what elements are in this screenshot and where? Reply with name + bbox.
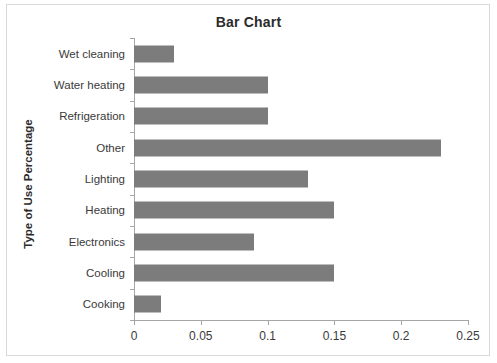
bar-cooling <box>134 264 334 281</box>
x-axis-tick-label: 0.2 <box>393 329 410 343</box>
y-axis-tick-label: Cooking <box>83 298 125 310</box>
y-axis-tick-label: Lighting <box>85 173 125 185</box>
x-axis-tick-label: 0 <box>131 329 138 343</box>
chart-category-row: Cooking <box>134 289 468 320</box>
y-axis-tick <box>130 163 134 164</box>
x-axis-tick <box>268 321 269 325</box>
y-axis-tick <box>130 38 134 39</box>
x-axis-tick-label: 0.05 <box>189 329 212 343</box>
bar-heating <box>134 202 334 219</box>
bar-water-heating <box>134 76 268 93</box>
bar-chart-figure: Bar Chart Type of Use Percentage Cooking… <box>0 0 497 363</box>
y-axis-tick-label: Refrigeration <box>59 110 125 122</box>
bar-electronics <box>134 233 254 250</box>
y-axis-tick-label: Water heating <box>54 79 125 91</box>
y-axis-tick <box>130 226 134 227</box>
y-axis-tick-label: Heating <box>85 204 125 216</box>
chart-category-row: Wet cleaning <box>134 38 468 69</box>
x-axis-tick <box>134 321 135 325</box>
bar-lighting <box>134 170 308 187</box>
y-axis-tick-label: Other <box>96 142 125 154</box>
chart-category-row: Water heating <box>134 69 468 100</box>
chart-category-row: Refrigeration <box>134 101 468 132</box>
y-axis-title: Type of Use Percentage <box>22 74 34 294</box>
x-axis-tick <box>201 321 202 325</box>
y-axis-tick-label: Electronics <box>69 236 125 248</box>
x-axis-tick <box>334 321 335 325</box>
chart-category-row: Lighting <box>134 163 468 194</box>
x-axis-tick <box>468 321 469 325</box>
bar-other <box>134 139 441 156</box>
chart-category-row: Electronics <box>134 226 468 257</box>
bar-wet-cleaning <box>134 45 174 62</box>
y-axis-tick <box>130 132 134 133</box>
y-axis-tick <box>130 195 134 196</box>
y-axis-tick-label: Cooling <box>86 267 125 279</box>
bar-cooking <box>134 296 161 313</box>
chart-category-row: Heating <box>134 195 468 226</box>
y-axis-tick <box>130 69 134 70</box>
chart-title: Bar Chart <box>0 14 497 30</box>
chart-category-row: Cooling <box>134 257 468 288</box>
plot-area: CookingCoolingElectronicsHeatingLighting… <box>134 38 468 320</box>
y-axis-tick <box>130 257 134 258</box>
y-axis-tick <box>130 289 134 290</box>
bar-refrigeration <box>134 108 268 125</box>
chart-category-row: Other <box>134 132 468 163</box>
x-axis-tick-label: 0.1 <box>259 329 276 343</box>
x-axis-line <box>134 320 469 321</box>
x-axis-tick-label: 0.25 <box>456 329 479 343</box>
x-axis-tick-label: 0.15 <box>323 329 346 343</box>
y-axis-tick-label: Wet cleaning <box>59 48 125 60</box>
x-axis-tick <box>401 321 402 325</box>
y-axis-tick <box>130 101 134 102</box>
